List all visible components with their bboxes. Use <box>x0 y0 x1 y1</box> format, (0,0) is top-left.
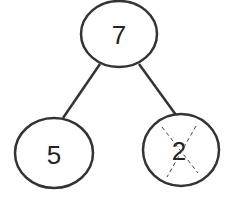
whole-value: 7 <box>112 20 126 50</box>
whole-node: 7 <box>81 1 157 67</box>
part-node-right: 2 <box>143 114 219 186</box>
connector-left <box>63 64 100 118</box>
part-value-left: 5 <box>47 140 61 170</box>
part-node-left: 5 <box>15 118 93 188</box>
part-value-right: 2 <box>172 136 186 166</box>
connector-right <box>139 64 176 115</box>
number-bond-diagram: 7 5 2 <box>0 0 232 204</box>
